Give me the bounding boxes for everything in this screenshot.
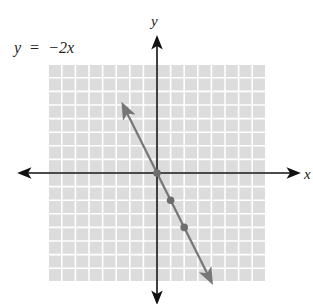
x-axis-label: x: [303, 166, 311, 182]
equation-equals: =: [30, 39, 39, 56]
equation-lhs: y: [12, 39, 22, 57]
data-point: [153, 169, 161, 177]
equation-label: y = −2x: [12, 39, 74, 57]
coordinate-plane: x y y = −2x: [0, 0, 313, 304]
equation-rhs: −2x: [48, 39, 74, 56]
y-axis-label: y: [149, 13, 158, 29]
data-point: [180, 224, 188, 232]
data-point: [167, 196, 175, 204]
